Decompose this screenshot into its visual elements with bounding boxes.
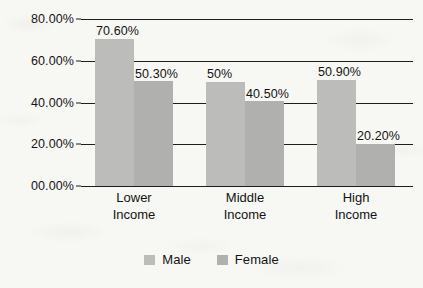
category-label-high-income-line2: Income	[305, 207, 407, 224]
bar-group-high-income: 50.90% 20.20%	[317, 19, 395, 186]
legend-swatch-male-icon	[144, 255, 155, 265]
bar-label-female-lower-income: 50.30%	[135, 68, 178, 81]
category-label-middle-income: Middle Income	[194, 190, 296, 223]
bar-label-female-high-income: 20.20%	[357, 130, 400, 143]
y-axis: 80.00% 60.00% 40.00% 20.00% 00.00%	[0, 0, 76, 288]
bar-male-middle-income[interactable]: 50%	[206, 82, 245, 186]
bar-group-lower-income: 70.60% 50.30%	[95, 19, 173, 186]
bar-female-high-income[interactable]: 20.20%	[356, 144, 395, 186]
bar-label-female-middle-income: 40.50%	[246, 88, 289, 101]
bar-female-lower-income[interactable]: 50.30%	[134, 81, 173, 186]
y-tick-label-0: 00.00%	[0, 179, 74, 193]
bar-group-middle-income: 50% 40.50%	[206, 19, 284, 186]
category-label-high-income-line1: High	[305, 190, 407, 207]
category-label-high-income: High Income	[305, 190, 407, 223]
legend-item-female[interactable]: Female	[217, 252, 279, 267]
bar-label-male-lower-income: 70.60%	[96, 25, 139, 38]
bar-label-male-high-income: 50.90%	[318, 66, 361, 79]
category-label-lower-income-line2: Income	[83, 207, 185, 224]
legend-item-male[interactable]: Male	[144, 252, 191, 267]
bar-female-middle-income[interactable]: 40.50%	[245, 101, 284, 186]
legend-label-male: Male	[162, 252, 191, 267]
category-label-lower-income: Lower Income	[83, 190, 185, 223]
x-axis-baseline	[81, 186, 413, 187]
y-tick-label-80: 80.00%	[0, 12, 74, 26]
category-label-middle-income-line1: Middle	[194, 190, 296, 207]
x-axis-categories: Lower Income Middle Income High Income	[81, 190, 413, 234]
y-tick-label-60: 60.00%	[0, 54, 74, 68]
chart-legend: Male Female	[0, 252, 423, 267]
bar-chart: 80.00% 60.00% 40.00% 20.00% 00.00% 70.60…	[0, 0, 423, 288]
bar-label-male-middle-income: 50%	[207, 68, 232, 81]
legend-swatch-female-icon	[217, 255, 228, 265]
legend-label-female: Female	[235, 252, 279, 267]
bar-male-high-income[interactable]: 50.90%	[317, 80, 356, 186]
category-label-lower-income-line1: Lower	[83, 190, 185, 207]
category-label-middle-income-line2: Income	[194, 207, 296, 224]
y-tick-label-40: 40.00%	[0, 96, 74, 110]
y-tick-label-20: 20.00%	[0, 137, 74, 151]
bar-male-lower-income[interactable]: 70.60%	[95, 39, 134, 186]
plot-area: 70.60% 50.30% 50% 40.50% 50.90% 20.20%	[81, 19, 413, 186]
